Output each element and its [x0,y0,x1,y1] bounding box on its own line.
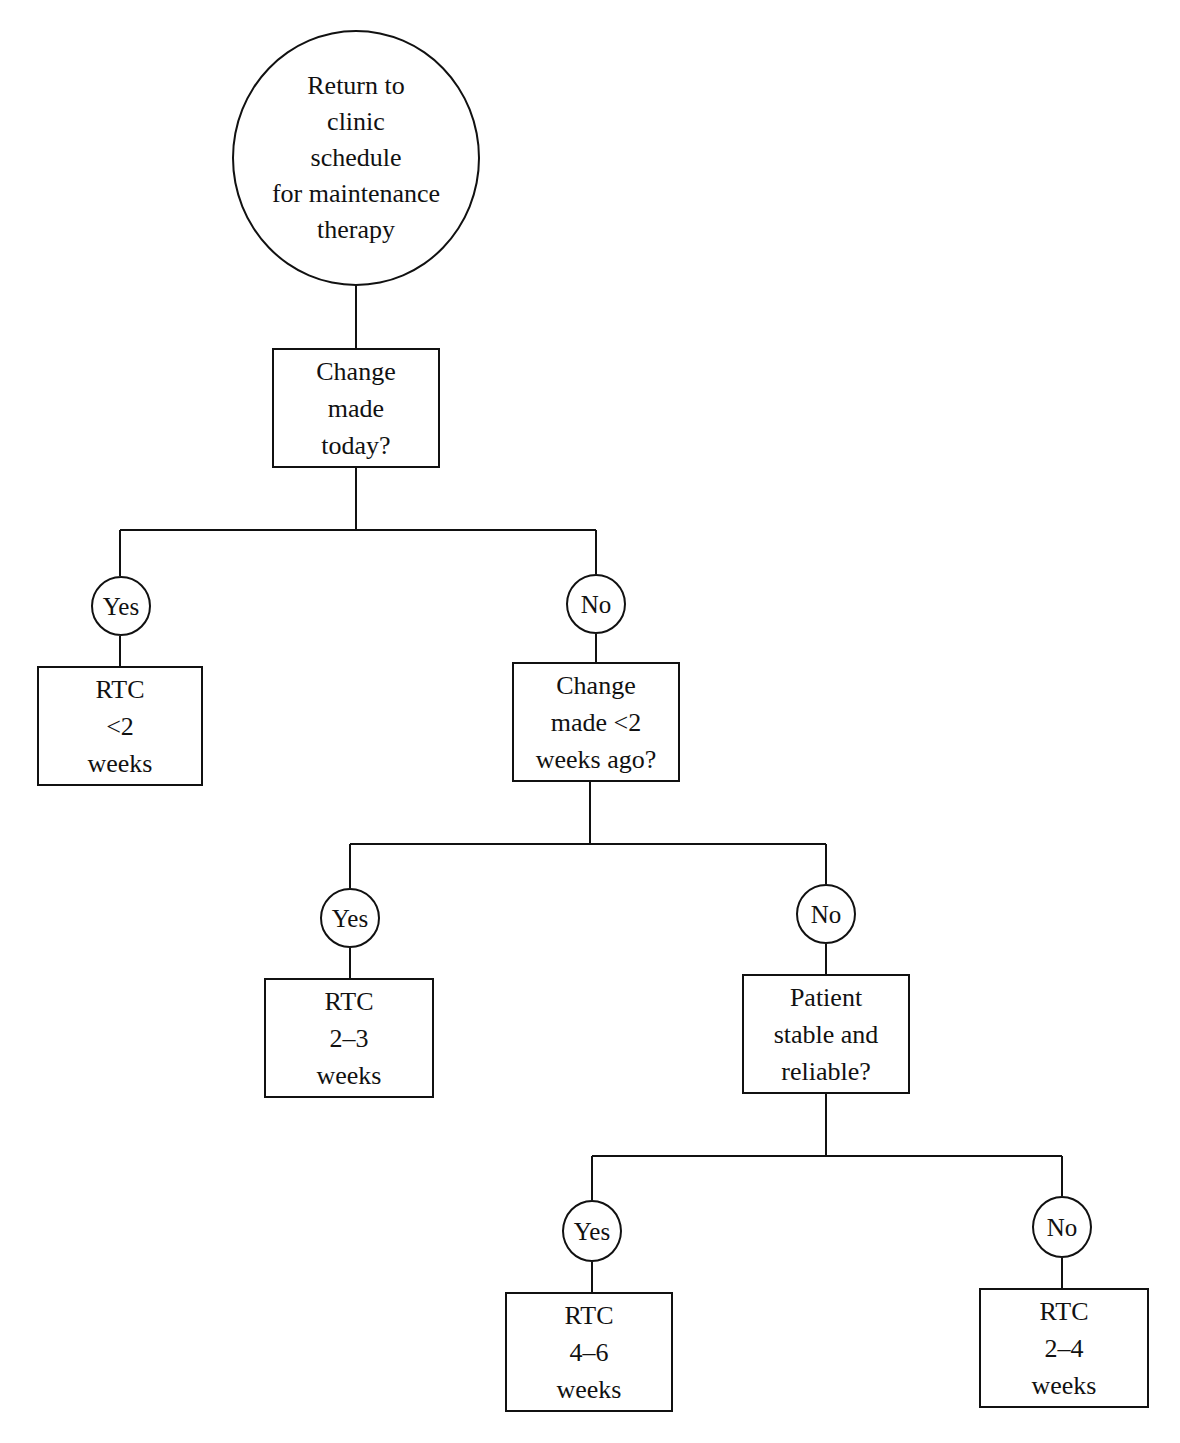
start-node-return-to-clinic: Return to clinic schedule for maintenanc… [232,30,480,286]
node-text: weeks ago? [536,741,657,778]
node-text: RTC [95,671,144,708]
node-text: Change [316,353,395,390]
node-text: made <2 [551,704,641,741]
outcome-rtc-less-than-2-weeks: RTC <2 weeks [37,666,203,786]
node-text: <2 [106,708,134,745]
yes-label-decision3: Yes [562,1200,622,1262]
node-text: 4–6 [570,1334,609,1371]
node-text: 2–4 [1045,1330,1084,1367]
no-label-decision3: No [1032,1196,1092,1258]
outcome-rtc-2-3-weeks: RTC 2–3 weeks [264,978,434,1098]
node-text: weeks [1032,1367,1097,1404]
node-text: Patient [790,979,862,1016]
label-text: No [581,586,612,623]
node-text: clinic [327,104,385,140]
decision-change-made-today: Change made today? [272,348,440,468]
no-label-decision2: No [796,884,856,944]
label-text: Yes [103,588,139,625]
no-label-decision1: No [566,574,626,634]
node-text: made [328,390,384,427]
node-text: stable and [774,1016,879,1053]
label-text: No [1047,1209,1078,1246]
node-text: today? [321,427,390,464]
node-text: weeks [88,745,153,782]
node-text: reliable? [781,1053,871,1090]
outcome-rtc-4-6-weeks: RTC 4–6 weeks [505,1292,673,1412]
outcome-rtc-2-4-weeks: RTC 2–4 weeks [979,1288,1149,1408]
node-text: schedule [311,140,402,176]
node-text: Return to [307,68,405,104]
node-text: weeks [317,1057,382,1094]
node-text: 2–3 [330,1020,369,1057]
node-text: RTC [564,1297,613,1334]
node-text: therapy [317,212,395,248]
decision-patient-stable-and-reliable: Patient stable and reliable? [742,974,910,1094]
node-text: RTC [1039,1293,1088,1330]
node-text: Change [556,667,635,704]
label-text: No [811,896,842,933]
yes-label-decision1: Yes [91,576,151,636]
node-text: for maintenance [272,176,440,212]
node-text: RTC [324,983,373,1020]
decision-change-made-less-than-2-weeks-ago: Change made <2 weeks ago? [512,662,680,782]
label-text: Yes [332,900,368,937]
label-text: Yes [574,1213,610,1250]
yes-label-decision2: Yes [320,888,380,948]
node-text: weeks [557,1371,622,1408]
